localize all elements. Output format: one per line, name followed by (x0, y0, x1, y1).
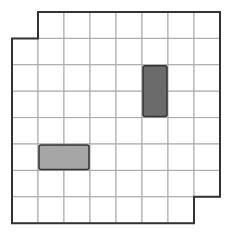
grid-cell[interactable] (64, 118, 90, 144)
grid-cell[interactable] (38, 170, 64, 196)
grid-cell[interactable] (116, 38, 142, 64)
grid-cell[interactable] (64, 38, 90, 64)
grid-cell[interactable] (12, 170, 38, 196)
grid-cell[interactable] (116, 118, 142, 144)
grid-cell[interactable] (64, 65, 90, 91)
grid-cell[interactable] (38, 197, 64, 223)
grid-cell[interactable] (38, 12, 64, 38)
grid-cell[interactable] (142, 170, 168, 196)
grid-cell[interactable] (116, 12, 142, 38)
grid-cell[interactable] (64, 12, 90, 38)
grid-cell[interactable] (116, 197, 142, 223)
grid-cell[interactable] (142, 197, 168, 223)
grid-cell[interactable] (90, 170, 116, 196)
grid-cell[interactable] (64, 170, 90, 196)
grid-cell[interactable] (168, 12, 194, 38)
grid-cell[interactable] (194, 144, 220, 170)
puzzle-board (0, 0, 232, 234)
grid-cell[interactable] (90, 197, 116, 223)
grid-cell[interactable] (142, 144, 168, 170)
horizontal-light-block[interactable] (39, 145, 89, 169)
grid-cell[interactable] (90, 12, 116, 38)
grid-cell[interactable] (116, 91, 142, 117)
grid-cell[interactable] (90, 38, 116, 64)
grid-cell[interactable] (116, 144, 142, 170)
grid-cell[interactable] (38, 91, 64, 117)
grid-cell[interactable] (142, 38, 168, 64)
grid-cell[interactable] (194, 91, 220, 117)
grid-cell[interactable] (194, 38, 220, 64)
grid-cell[interactable] (168, 118, 194, 144)
grid-cell[interactable] (12, 91, 38, 117)
grid-cell[interactable] (12, 144, 38, 170)
grid-cell[interactable] (12, 118, 38, 144)
grid-cell[interactable] (194, 118, 220, 144)
grid-cell[interactable] (116, 65, 142, 91)
grid-cell[interactable] (12, 38, 38, 64)
grid-cell[interactable] (194, 12, 220, 38)
grid-cell[interactable] (142, 12, 168, 38)
grid-cell[interactable] (194, 170, 220, 196)
grid-cell[interactable] (168, 197, 194, 223)
grid-cell[interactable] (90, 91, 116, 117)
grid-cell[interactable] (168, 144, 194, 170)
grid-cell[interactable] (12, 65, 38, 91)
grid-cell[interactable] (90, 118, 116, 144)
grid-cell[interactable] (38, 65, 64, 91)
grid-cell[interactable] (116, 170, 142, 196)
grid-cell[interactable] (168, 91, 194, 117)
grid-cell[interactable] (90, 144, 116, 170)
vertical-dark-block[interactable] (143, 66, 167, 117)
grid-cell[interactable] (168, 65, 194, 91)
grid-cell[interactable] (12, 197, 38, 223)
grid-cell[interactable] (168, 170, 194, 196)
grid-cell[interactable] (168, 38, 194, 64)
grid-cell[interactable] (38, 38, 64, 64)
grid-cell[interactable] (64, 91, 90, 117)
grid-cells (12, 12, 220, 223)
grid-cell[interactable] (90, 65, 116, 91)
grid-cell[interactable] (142, 118, 168, 144)
grid-cell[interactable] (194, 65, 220, 91)
grid-cell[interactable] (64, 197, 90, 223)
grid-cell[interactable] (38, 118, 64, 144)
